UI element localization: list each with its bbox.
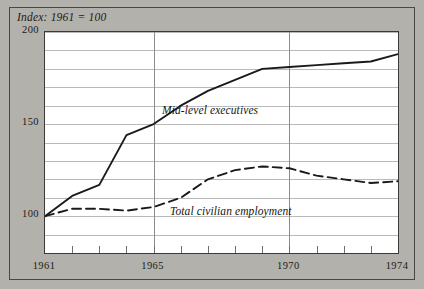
x-tick-label-1965: 1965 [130, 260, 176, 271]
y-tick-label-200: 200 [7, 24, 39, 35]
x-tick-label-1974: 1974 [374, 260, 420, 271]
vertical-gridlines [155, 32, 290, 253]
chart-title: Index: 1961 = 100 [17, 11, 106, 23]
x-axis-ticks [73, 246, 372, 253]
y-tick-label-150: 150 [7, 116, 39, 127]
chart-figure: Index: 1961 = 100 100150200 196119651970… [0, 0, 424, 289]
plot-area [44, 31, 399, 254]
y-tick-label-100: 100 [7, 208, 39, 219]
series-line-0 [45, 54, 398, 216]
series-label-mid-level-executives: Mid-level executives [162, 104, 258, 116]
x-tick-label-1961: 1961 [21, 260, 67, 271]
x-tick-label-1970: 1970 [265, 260, 311, 271]
horizontal-gridlines [45, 33, 398, 254]
series-label-total-civilian-employment: Total civilian employment [170, 205, 292, 217]
data-series-lines [45, 54, 398, 216]
plot-svg [45, 32, 398, 253]
